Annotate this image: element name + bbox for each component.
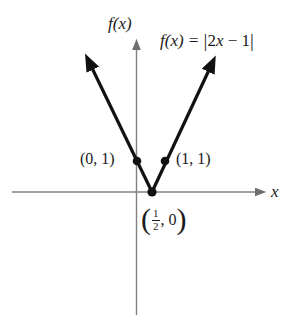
vertex-close-paren: ) [177,202,187,235]
curve-right-branch [152,70,209,192]
equation-constant: 1 [242,31,251,50]
y-axis-label: f(x) [108,15,132,32]
vertex-fraction-one-half: 12 [152,208,160,233]
point-marker-0-1 [133,157,142,166]
point-label-1-1: (1, 1) [176,151,211,167]
point-marker-1-1 [161,157,170,166]
curve-left-branch [92,68,152,192]
point-label-vertex: (12, 0) [141,199,187,233]
y-axis-label-text: f(x) [108,14,132,33]
fraction-denominator: 2 [152,221,160,233]
vertex-open-paren: ( [141,202,151,235]
point-marker-vertex [147,187,156,196]
function-equation-label: f(x) = |2x − 1| [160,30,254,49]
fraction-numerator: 1 [152,208,160,220]
absolute-value-function-graph: f(x) f(x) = |2x − 1| x (0, 1) (1, 1) (12… [0,0,289,315]
absolute-value-close-bar: | [250,30,254,51]
equation-left-side: f(x) = [160,31,204,50]
vertex-comma-zero: , 0 [161,212,177,228]
equation-operator: − [223,31,241,50]
absolute-value-open-bar: | [204,30,208,51]
x-axis-label: x [271,183,279,200]
equation-coefficient: 2 [207,31,216,50]
point-label-0-1: (0, 1) [80,151,115,167]
